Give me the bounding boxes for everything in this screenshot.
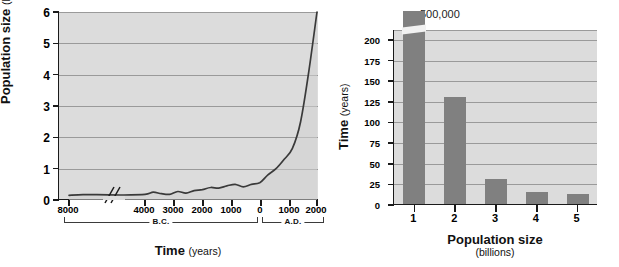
y-tick-label: 150 <box>354 76 380 87</box>
era-bracket-cap <box>262 217 263 223</box>
y-tick-label: 0 <box>36 194 50 208</box>
x-tick-label: 1 <box>410 212 416 224</box>
y-tick-label: 75 <box>354 138 380 149</box>
x-tick <box>144 200 146 206</box>
era-bracket-cap <box>257 217 258 223</box>
x-tick <box>316 200 318 206</box>
bar-2 <box>444 97 466 204</box>
y-tick <box>388 142 394 144</box>
right-x-axis-title-main: Population size <box>447 232 542 247</box>
x-tick <box>577 205 579 212</box>
y-tick-label: 200 <box>354 35 380 46</box>
y-tick-label: 25 <box>354 179 380 190</box>
left-plot-area <box>58 12 318 200</box>
y-tick-label: 3 <box>36 100 50 114</box>
y-tick-label: 4 <box>36 69 50 83</box>
bar1-value-annotation: 500,000 <box>420 8 460 20</box>
y-tick <box>388 39 394 41</box>
population-growth-figure: Population size (billions) 0123456 80004… <box>0 0 619 267</box>
x-tick <box>454 205 456 212</box>
x-axis-break-marker <box>103 184 129 206</box>
y-tick <box>388 184 394 186</box>
x-tick <box>414 205 416 212</box>
bar-1 <box>403 11 425 204</box>
y-tick-label: 6 <box>36 6 50 20</box>
bar-3 <box>485 179 507 204</box>
right-y-axis-title-main: Time <box>336 120 351 150</box>
y-tick-label: 175 <box>354 56 380 67</box>
right-y-axis-title: Time (years) <box>336 84 351 150</box>
era-bracket-cap <box>323 217 324 223</box>
x-tick <box>173 200 175 206</box>
y-tick <box>388 80 394 82</box>
y-tick-label: 1 <box>36 163 50 177</box>
y-tick <box>388 101 394 103</box>
x-tick <box>495 205 497 212</box>
bar-axis-break-marker <box>402 25 426 35</box>
y-tick-label: 50 <box>354 159 380 170</box>
era-label-bc: B.C. <box>149 217 172 226</box>
x-tick <box>536 205 538 212</box>
x-tick-label: 3 <box>492 212 498 224</box>
y-tick-label: 100 <box>354 117 380 128</box>
era-label-ad: A.D. <box>281 217 304 226</box>
population-curve <box>59 12 319 200</box>
right-plot-area <box>393 30 597 205</box>
x-tick-label: 2 <box>451 212 457 224</box>
bar-4 <box>526 192 548 204</box>
x-tick <box>202 200 204 206</box>
y-tick <box>388 163 394 165</box>
y-tick-label: 125 <box>354 97 380 108</box>
bar-chart-panel: Time (years) 500,000 0255075100125150175… <box>330 0 619 267</box>
x-tick <box>68 200 70 206</box>
bar-5 <box>567 194 589 204</box>
y-tick-label: 0 <box>354 200 380 211</box>
left-y-axis-title: Population size (billions) <box>0 0 13 104</box>
right-x-axis-title: Population size (billions) <box>447 232 542 258</box>
y-tick <box>388 204 394 206</box>
line-chart-panel: Population size (billions) 0123456 80004… <box>0 0 330 267</box>
right-y-axis-title-unit: (years) <box>338 84 350 117</box>
y-tick <box>388 122 394 124</box>
x-tick <box>289 200 291 206</box>
era-bracket-cap <box>64 217 65 223</box>
y-tick-label: 2 <box>36 131 50 145</box>
y-tick <box>388 60 394 62</box>
right-x-axis-title-unit: (billions) <box>447 246 542 258</box>
left-y-axis-title-main: Population size <box>0 9 13 104</box>
x-tick <box>260 200 262 206</box>
x-tick-label: 5 <box>574 212 580 224</box>
left-x-axis-title-main: Time <box>155 243 185 258</box>
left-y-axis-title-unit: (billions) <box>0 0 12 5</box>
left-x-axis-title: Time (years) <box>155 243 221 258</box>
x-tick <box>231 200 233 206</box>
y-tick-label: 5 <box>36 37 50 51</box>
left-x-axis-title-unit: (years) <box>189 245 222 257</box>
x-tick-label: 4 <box>533 212 539 224</box>
